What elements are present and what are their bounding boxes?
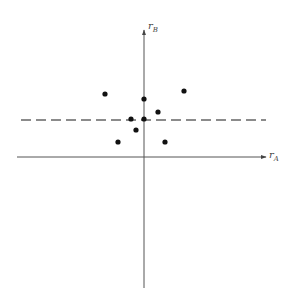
data-point	[128, 116, 133, 121]
x-axis-label-subscript: A	[274, 155, 279, 163]
data-point	[115, 139, 120, 144]
scatter-diagram	[0, 0, 292, 293]
y-axis-label-subscript: B	[153, 26, 158, 34]
data-point	[102, 91, 107, 96]
data-point	[181, 88, 186, 93]
data-point	[141, 116, 146, 121]
x-axis-label: rA	[269, 150, 279, 163]
data-point	[155, 109, 160, 114]
y-axis-label: rB	[148, 21, 158, 34]
data-point	[162, 139, 167, 144]
data-point	[133, 127, 138, 132]
data-point	[141, 96, 146, 101]
